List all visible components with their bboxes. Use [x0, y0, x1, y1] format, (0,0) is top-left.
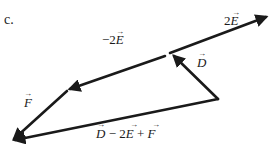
- vector-D: [174, 56, 218, 99]
- label-2E: 2E →: [224, 8, 240, 28]
- arrow-accent: →: [116, 27, 124, 36]
- label-D: D →: [196, 49, 207, 70]
- vector-2E: [170, 17, 266, 53]
- arrow-accent: →: [232, 8, 240, 17]
- label-neg-2E: −2E →: [102, 27, 124, 47]
- arrow-accent: →: [24, 89, 32, 98]
- label-resultant: D − 2E + F → → →: [95, 120, 160, 141]
- vector-neg-2E: [70, 56, 165, 89]
- svg-text:→: →: [97, 120, 105, 129]
- arrow-accent: →: [198, 49, 206, 58]
- vector-diagram: c. 2E → −2E → D → F → D − 2E + F → → →: [0, 0, 273, 148]
- label-F: F →: [23, 89, 33, 110]
- svg-text:→: →: [152, 120, 160, 129]
- svg-text:→: →: [130, 120, 138, 129]
- part-label: c.: [4, 12, 14, 27]
